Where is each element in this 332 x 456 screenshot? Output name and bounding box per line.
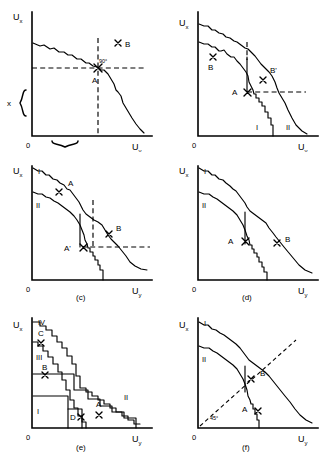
panel-caption-d: (d) (242, 293, 252, 302)
axes-c (32, 166, 152, 280)
frontier-curve-f-II (199, 346, 259, 428)
point-label-a-A: A (92, 76, 98, 85)
curve-label-b-I: I (256, 123, 258, 132)
point-label-e-C: C (38, 329, 44, 338)
point-marker-e-C (38, 340, 44, 346)
x-axis-label-d: Uy (298, 286, 308, 298)
frontier-curve-b-II (199, 24, 307, 134)
curve-label-e-II: II (124, 393, 128, 402)
frontier-curve-a (33, 43, 144, 133)
point-label-e-B: B (42, 363, 47, 372)
y-axis-label-f: Ux (179, 320, 189, 332)
angle-annotation-a: 90° (99, 58, 107, 64)
point-label-c-Aprime: A' (64, 244, 71, 253)
origin-label-f: 0 (192, 433, 196, 442)
point-marker-e-A (96, 412, 102, 418)
panel-d: Ux Uy 0 A B I II (d) (166, 152, 332, 304)
point-marker-e-B (42, 372, 48, 378)
point-label-b-Bprime: B' (270, 66, 277, 75)
panel-f: Ux Uy 0 I II B A 45° (f) (166, 304, 332, 456)
point-label-c-A: A (68, 179, 74, 188)
frontier-curve-c-I (33, 168, 147, 270)
curve-label-e-I: I (37, 407, 39, 416)
point-marker-a-B (115, 40, 121, 46)
panel-caption-f: (f) (242, 443, 250, 452)
point-label-d-A: A (228, 237, 234, 246)
point-label-d-B: B (285, 235, 290, 244)
frontier-curve-d-II (199, 192, 267, 280)
point-marker-d-B (274, 240, 280, 246)
point-label-e-A: A (96, 400, 102, 409)
panel-e: Ux Uy 0 IV III II I C B D A (e) (0, 304, 166, 456)
point-label-a-B: B (125, 40, 130, 49)
curve-label-c-I: I (38, 167, 40, 176)
y-axis-label-b: Ux (179, 18, 189, 30)
figure-container: Ux Uy 0 A B 90° x y (a) (0, 0, 332, 456)
origin-label-e: 0 (26, 433, 30, 442)
y-axis-label-c: Ux (13, 166, 23, 178)
point-marker-b-Bprime (260, 77, 266, 83)
x-axis-label-e: Uy (132, 434, 142, 446)
axes-a (32, 12, 152, 136)
panel-a: Ux Uy 0 A B 90° x y (a) (0, 0, 166, 152)
panel-c: Ux Uy 0 A A' B I II (c) (0, 152, 166, 304)
curve-label-e-III: III (36, 353, 42, 362)
angle-annotation-f: 45° (210, 415, 218, 421)
bottom-brace-a (52, 141, 78, 147)
origin-label-c: 0 (26, 285, 30, 294)
x-axis-label-b: Uy (298, 142, 308, 152)
curve-label-d-II: II (202, 201, 206, 210)
origin-label-b: 0 (192, 141, 196, 150)
frontier-curve-d-I (199, 168, 312, 273)
frontier-curve-e-IV (33, 322, 140, 424)
axes-e (32, 318, 152, 428)
left-brace-a (20, 90, 26, 116)
y-axis-label-a: Ux (13, 12, 23, 24)
curve-label-f-II: II (202, 355, 206, 364)
origin-label-a: 0 (26, 141, 30, 150)
diagonal-45-guide-f (200, 340, 296, 426)
point-label-b-A: A (232, 88, 238, 97)
panel-b: Ux Uy 0 B B' A I II (b) (166, 0, 332, 152)
x-axis-label-c: Uy (132, 286, 142, 298)
point-marker-f-A (255, 408, 261, 414)
x-distance-label-a: x (7, 99, 11, 108)
origin-label-d: 0 (192, 285, 196, 294)
point-label-e-D: D (70, 413, 76, 422)
curve-label-f-I: I (204, 319, 206, 328)
y-axis-label-e: Ux (13, 320, 23, 332)
x-axis-label-f: Uy (298, 434, 308, 446)
curve-label-d-I: I (204, 167, 206, 176)
curve-label-c-II: II (36, 201, 40, 210)
panel-caption-c: (c) (76, 293, 86, 302)
point-marker-b-B (210, 54, 216, 60)
point-label-f-B: B (260, 369, 265, 378)
point-label-c-B: B (116, 224, 121, 233)
x-axis-label-a: Uy (132, 142, 142, 152)
curve-label-e-IV: IV (38, 318, 45, 327)
point-marker-c-A (56, 189, 62, 195)
point-label-f-A: A (242, 405, 248, 414)
point-label-b-B: B (208, 63, 213, 72)
y-axis-label-d: Ux (179, 166, 189, 178)
panel-caption-e: (e) (76, 443, 86, 452)
axes-d (198, 166, 318, 280)
point-marker-e-D (78, 414, 84, 420)
curve-label-b-II: II (286, 123, 290, 132)
